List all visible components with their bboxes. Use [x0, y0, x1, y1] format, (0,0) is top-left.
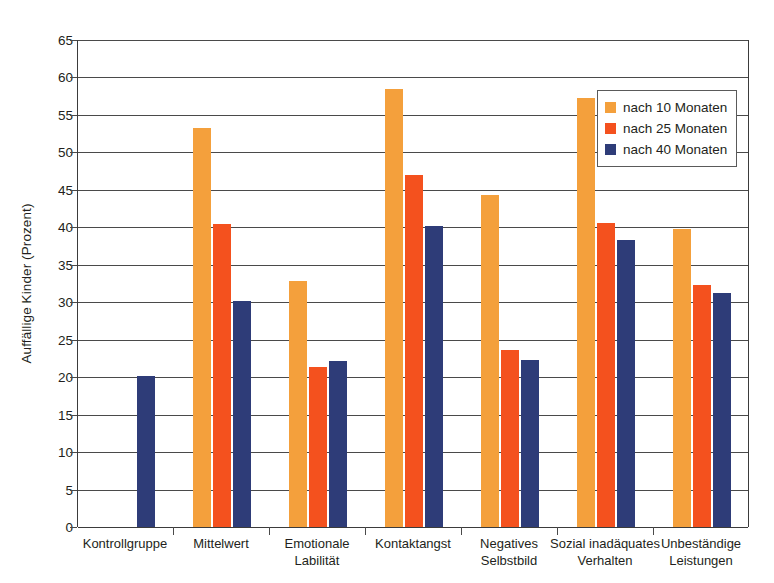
- y-axis-tick: [70, 377, 77, 378]
- x-axis-tick-label: Unbeständige Leistungen: [635, 536, 767, 569]
- bar[interactable]: [329, 361, 348, 527]
- bar-group: [193, 40, 252, 527]
- bar[interactable]: [309, 367, 328, 527]
- bar[interactable]: [385, 89, 404, 527]
- legend-item[interactable]: nach 10 Monaten: [605, 97, 727, 118]
- x-axis-tick: [557, 527, 558, 535]
- y-axis-tick-labels: 05101520253035404550556065: [40, 40, 73, 527]
- bar[interactable]: [289, 281, 308, 527]
- y-axis-tick: [70, 190, 77, 191]
- x-axis-tick: [269, 527, 270, 535]
- y-axis-tick: [70, 490, 77, 491]
- bar[interactable]: [693, 285, 712, 527]
- x-axis-tick: [461, 527, 462, 535]
- bar[interactable]: [213, 224, 232, 527]
- bar-group: [289, 40, 348, 527]
- bar-group: [385, 40, 444, 527]
- y-axis-tick: [70, 77, 77, 78]
- x-axis-tick: [365, 527, 366, 535]
- bar[interactable]: [405, 175, 424, 527]
- y-axis-tick: [70, 265, 77, 266]
- legend-item[interactable]: nach 25 Monaten: [605, 118, 727, 139]
- legend: nach 10 Monaten nach 25 Monaten nach 40 …: [597, 90, 737, 167]
- bar[interactable]: [233, 301, 252, 527]
- legend-item-label: nach 25 Monaten: [623, 121, 727, 136]
- y-axis-tick: [70, 340, 77, 341]
- bar-chart: Auffällige Kinder (Prozent) 051015202530…: [0, 0, 774, 583]
- bar[interactable]: [597, 223, 616, 527]
- bar[interactable]: [501, 350, 520, 527]
- legend-item-label: nach 10 Monaten: [623, 100, 727, 115]
- y-axis-tick: [70, 227, 77, 228]
- y-axis-title-text: Auffällige Kinder (Prozent): [19, 203, 34, 363]
- x-axis-tick: [653, 527, 654, 535]
- y-axis-title: Auffällige Kinder (Prozent): [14, 40, 38, 527]
- y-axis-tick: [70, 152, 77, 153]
- y-axis-tick: [70, 115, 77, 116]
- legend-swatch-icon: [605, 123, 616, 134]
- bar[interactable]: [481, 195, 500, 527]
- legend-item[interactable]: nach 40 Monaten: [605, 139, 727, 160]
- legend-item-label: nach 40 Monaten: [623, 142, 727, 157]
- x-axis-tick: [173, 527, 174, 535]
- bar[interactable]: [673, 229, 692, 527]
- legend-swatch-icon: [605, 144, 616, 155]
- bar[interactable]: [137, 376, 156, 527]
- y-axis-tick: [70, 527, 77, 528]
- y-axis-tick: [70, 40, 77, 41]
- y-axis-tick: [70, 452, 77, 453]
- y-axis-tick: [70, 415, 77, 416]
- bar[interactable]: [577, 98, 596, 527]
- x-axis-tick-labels: KontrollgruppeMittelwertEmotionale Labil…: [77, 536, 749, 583]
- bar-group: [481, 40, 540, 527]
- y-axis-tick: [70, 302, 77, 303]
- bar[interactable]: [617, 240, 636, 527]
- bar[interactable]: [521, 360, 540, 527]
- x-axis-tick-marks: [77, 527, 749, 536]
- legend-swatch-icon: [605, 102, 616, 113]
- bar[interactable]: [425, 226, 444, 527]
- bar-group: [97, 40, 156, 527]
- bar[interactable]: [193, 128, 212, 527]
- bar[interactable]: [713, 293, 732, 528]
